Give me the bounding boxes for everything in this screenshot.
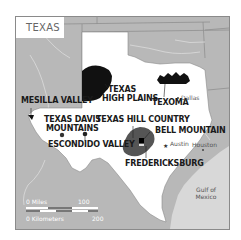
scale-miles-label: 0 Miles bbox=[26, 199, 47, 205]
scale-km-value: 200 bbox=[92, 216, 103, 222]
bell-mountain-region bbox=[139, 138, 144, 143]
houston-dot-icon bbox=[202, 149, 204, 151]
scale-km-label: 0 Kilometers bbox=[26, 216, 64, 222]
label-bell-mountain: BELL MOUNTAIN bbox=[155, 127, 226, 135]
label-texas-davis-1: TEXAS DAVIS bbox=[44, 116, 101, 124]
city-dallas: Dallas bbox=[181, 95, 199, 101]
texas-davis-mountains-marker bbox=[60, 133, 64, 137]
map-title: TEXAS bbox=[26, 22, 60, 33]
label-escondido-valley: ESCONDIDO VALLEY bbox=[48, 141, 135, 149]
gulf-label-line2: Mexico bbox=[186, 193, 226, 200]
label-fredericksburg: FREDERICKSBURG bbox=[125, 160, 204, 168]
scale-miles-value: 100 bbox=[78, 199, 89, 205]
fredericksburg-region bbox=[139, 144, 144, 146]
label-texas-hill-country: TEXAS HILL COUNTRY bbox=[96, 116, 190, 124]
gulf-label-line1: Gulf of bbox=[186, 186, 226, 193]
label-texas-high-plains-1: TEXAS bbox=[108, 86, 136, 94]
city-houston: Houston bbox=[192, 142, 217, 148]
city-austin: Austin bbox=[170, 141, 189, 147]
label-mesilla-valley: MESILLA VALLEY bbox=[21, 97, 93, 105]
austin-star-icon: ★ bbox=[163, 142, 168, 149]
label-texas-davis-2: MOUNTAINS bbox=[46, 125, 99, 133]
label-texas-high-plains-2: HIGH PLAINS bbox=[102, 95, 158, 103]
